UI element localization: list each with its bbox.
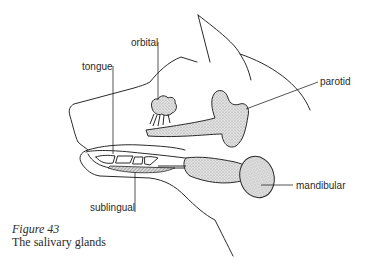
figure-number: Figure 43 [12, 223, 106, 236]
upper-lip [88, 145, 185, 150]
parotid-leader [246, 82, 318, 109]
neck-line [240, 54, 310, 110]
salivary-glands-diagram: orbital tongue parotid sublingual mandib… [0, 0, 365, 268]
tooth-3 [133, 157, 143, 164]
figure-caption: Figure 43 The salivary glands [12, 223, 106, 248]
mandibular-gland [158, 152, 279, 201]
parotid-label: parotid [320, 77, 351, 87]
tooth-4 [145, 157, 158, 165]
orbital-label: orbital [131, 38, 158, 48]
orbital-gland [150, 96, 176, 126]
tooth-2 [116, 156, 133, 163]
ear-front [198, 15, 210, 62]
sublingual-label: sublingual [90, 203, 135, 213]
tooth-1 [96, 155, 115, 163]
mandibular-label: mandibular [296, 181, 345, 191]
tongue-label: tongue [82, 62, 113, 72]
figure-title: The salivary glands [12, 236, 106, 249]
sublingual-gland [108, 166, 175, 173]
